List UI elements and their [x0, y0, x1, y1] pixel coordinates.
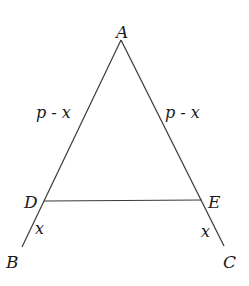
triangle-diagram: A D E B C p - x p - x x x — [0, 0, 249, 286]
side-ab — [22, 40, 121, 247]
diagram-canvas: A D E B C p - x p - x x x — [0, 0, 249, 286]
segment-label-ad: p - x — [36, 103, 71, 122]
segment-label-ec: x — [201, 222, 210, 241]
side-ac — [121, 40, 224, 246]
vertex-label-a: A — [114, 22, 128, 42]
vertex-label-e: E — [207, 192, 221, 212]
segment-label-ae: p - x — [165, 103, 200, 122]
segment-de — [44, 200, 202, 201]
vertex-label-b: B — [5, 252, 19, 272]
vertex-label-d: D — [23, 192, 38, 212]
segment-label-db: x — [35, 219, 44, 238]
vertex-label-c: C — [223, 252, 236, 272]
